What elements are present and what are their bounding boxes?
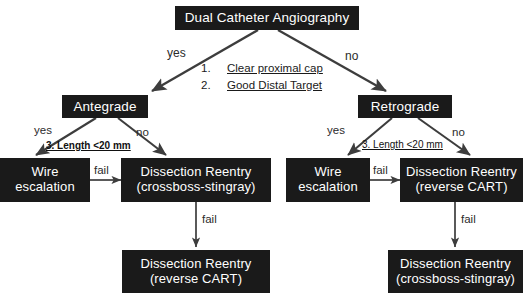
node-line: Retrograde bbox=[371, 99, 440, 114]
node-right-bottom-dissection-reentry[interactable]: Dissection Reentry (crossboss-stingray) bbox=[388, 250, 523, 293]
criteria-index: 2. bbox=[201, 77, 227, 94]
node-line: escalation bbox=[15, 180, 75, 195]
node-line: Antegrade bbox=[73, 99, 136, 114]
criteria-text: Clear proximal cap bbox=[227, 60, 323, 77]
edge-label-left-yes: yes bbox=[34, 124, 52, 136]
edge-label-left-fail-horizontal: fail bbox=[94, 164, 109, 176]
edge-label-right-yes: yes bbox=[327, 124, 345, 136]
criteria-item: 2. Good Distal Target bbox=[201, 77, 323, 94]
node-line: Wire bbox=[31, 165, 58, 180]
node-left-dissection-reentry[interactable]: Dissection Reentry (crossboss-stingray) bbox=[121, 158, 271, 202]
condition-length-left: 3. Length <20 mm bbox=[46, 140, 131, 151]
edge-label-top-no: no bbox=[345, 49, 358, 63]
edge-label-left-no: no bbox=[136, 126, 149, 138]
node-retrograde[interactable]: Retrograde bbox=[358, 95, 452, 118]
node-antegrade[interactable]: Antegrade bbox=[62, 95, 148, 118]
node-line: Wire bbox=[314, 165, 341, 180]
node-line: (reverse CART) bbox=[150, 272, 242, 287]
node-left-wire-escalation[interactable]: Wire escalation bbox=[0, 158, 90, 202]
node-line: Dissection Reentry bbox=[141, 165, 252, 180]
node-line: (reverse CART) bbox=[415, 180, 507, 195]
node-line: (crossboss-stingray) bbox=[396, 272, 515, 287]
criteria-list: 1. Clear proximal cap 2. Good Distal Tar… bbox=[201, 60, 323, 93]
flowchart-canvas: Dual Catheter Angiography yes no 1. Clea… bbox=[0, 0, 523, 296]
criteria-text: Good Distal Target bbox=[227, 77, 322, 94]
node-line: Dual Catheter Angiography bbox=[185, 10, 350, 25]
edge-label-right-no: no bbox=[452, 126, 465, 138]
edge-label-right-fail-vertical: fail bbox=[461, 213, 476, 225]
node-left-bottom-dissection-reentry[interactable]: Dissection Reentry (reverse CART) bbox=[122, 250, 270, 293]
edge-label-right-fail-horizontal: fail bbox=[373, 164, 388, 176]
edge-label-top-yes: yes bbox=[167, 46, 186, 60]
node-dual-catheter-angiography[interactable]: Dual Catheter Angiography bbox=[175, 6, 359, 30]
node-line: escalation bbox=[298, 180, 358, 195]
edge-label-left-fail-vertical: fail bbox=[202, 213, 217, 225]
node-line: Dissection Reentry bbox=[406, 165, 517, 180]
criteria-index: 1. bbox=[201, 60, 227, 77]
node-right-wire-escalation[interactable]: Wire escalation bbox=[286, 158, 370, 202]
node-line: Dissection Reentry bbox=[141, 257, 252, 272]
criteria-item: 1. Clear proximal cap bbox=[201, 60, 323, 77]
node-line: Dissection Reentry bbox=[400, 257, 511, 272]
node-line: (crossboss-stingray) bbox=[136, 180, 255, 195]
node-right-dissection-reentry[interactable]: Dissection Reentry (reverse CART) bbox=[400, 158, 523, 202]
condition-length-right: 3. Length <20 mm bbox=[362, 139, 443, 150]
